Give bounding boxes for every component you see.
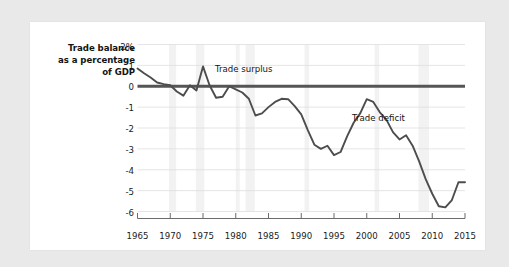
x-tick-label-2005: 2005	[385, 231, 415, 241]
x-tick-label-2010: 2010	[417, 231, 447, 241]
y-tick-label-2: 2%	[112, 42, 134, 52]
y-tick-label-neg2: -2	[112, 124, 134, 134]
y-tick-label-neg1: -1	[112, 103, 134, 113]
x-tick-label-1975: 1975	[188, 231, 218, 241]
figure-root: Trade balance as a percentage of GDP 2% …	[0, 0, 509, 267]
y-tick-label-neg5: -5	[112, 187, 134, 197]
chart-svg	[0, 0, 509, 267]
x-tick-label-1990: 1990	[286, 231, 316, 241]
y-tick-label-neg6: -6	[112, 208, 134, 218]
x-tick-label-1965: 1965	[123, 231, 153, 241]
y-tick-label-neg3: -3	[112, 145, 134, 155]
x-tick-label-1980: 1980	[221, 231, 251, 241]
x-tick-label-2000: 2000	[352, 231, 382, 241]
y-tick-label-neg4: -4	[112, 166, 134, 176]
x-tick-label-2015: 2015	[450, 231, 480, 241]
x-tick-label-1995: 1995	[319, 231, 349, 241]
y-tick-label-0: 0	[112, 82, 134, 92]
annotation-trade-deficit: Trade deficit	[352, 113, 405, 123]
x-tick-label-1970: 1970	[155, 231, 185, 241]
plot-area	[0, 0, 509, 267]
x-tick-label-1985: 1985	[254, 231, 284, 241]
y-tick-label-1: 1	[112, 62, 134, 72]
annotation-trade-surplus: Trade surplus	[215, 64, 272, 74]
